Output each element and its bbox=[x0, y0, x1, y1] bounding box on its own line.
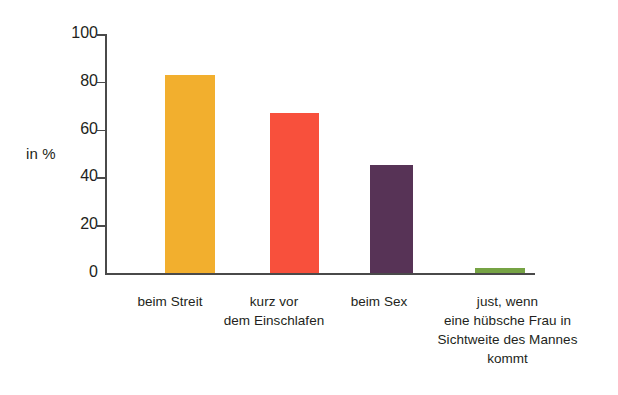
y-tick-mark bbox=[97, 130, 105, 132]
y-tick-label: 60 bbox=[52, 119, 98, 139]
bar-just-wenn bbox=[475, 268, 525, 273]
category-label-beim-sex: beim Sex bbox=[329, 292, 429, 311]
y-tick-mark bbox=[97, 82, 105, 84]
bar-chart: in % 100 80 60 40 20 0 bbox=[0, 0, 618, 395]
y-axis-title: in % bbox=[26, 145, 96, 162]
y-tick-mark bbox=[97, 177, 105, 179]
category-line: dem Einschlafen bbox=[214, 311, 334, 330]
y-tick-label: 80 bbox=[52, 71, 98, 91]
y-tick-mark bbox=[97, 34, 105, 36]
y-axis-line bbox=[105, 34, 107, 273]
y-tick-label: 40 bbox=[52, 166, 98, 186]
y-tick-label: 0 bbox=[52, 262, 98, 282]
category-line: beim Streit bbox=[110, 292, 230, 311]
category-label-beim-streit: beim Streit bbox=[110, 292, 230, 311]
category-label-kurz-vor-dem-einschlafen: kurz vor dem Einschlafen bbox=[214, 292, 334, 330]
x-axis-category-labels: beim Streit kurz vor dem Einschlafen bei… bbox=[105, 292, 575, 392]
category-line: kurz vor bbox=[214, 292, 334, 311]
y-tick-mark bbox=[97, 225, 105, 227]
y-tick-label: 100 bbox=[52, 23, 98, 43]
x-axis-line bbox=[105, 273, 535, 275]
plot-area: 100 80 60 40 20 0 bbox=[105, 34, 535, 273]
bar-beim-streit bbox=[165, 75, 215, 273]
bar-beim-sex bbox=[370, 165, 413, 273]
bar-kurz-vor-dem-einschlafen bbox=[270, 113, 319, 273]
category-line: eine hübsche Frau in bbox=[425, 311, 590, 330]
y-tick-label: 20 bbox=[52, 214, 98, 234]
category-line: beim Sex bbox=[329, 292, 429, 311]
category-label-just-wenn: just, wenn eine hübsche Frau in Sichtwei… bbox=[425, 292, 590, 368]
category-line: Sichtweite des Mannes bbox=[425, 330, 590, 349]
category-line: kommt bbox=[425, 349, 590, 368]
category-line: just, wenn bbox=[425, 292, 590, 311]
